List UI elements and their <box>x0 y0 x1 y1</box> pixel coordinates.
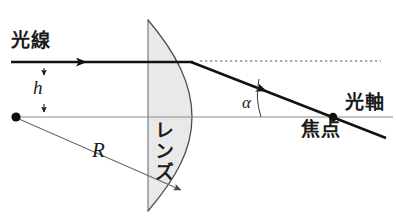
lens-ray-diagram: 光線 光軸 焦点 レンズ h R α <box>0 0 396 221</box>
radius-label: R <box>92 140 105 161</box>
angle-alpha-arc <box>257 79 261 117</box>
center-of-curvature-dot <box>11 112 20 121</box>
ray-height-label: h <box>33 78 43 97</box>
optical-axis-label: 光軸 <box>345 93 384 112</box>
refraction-angle-label: α <box>242 94 251 111</box>
lens-label: レンズ <box>153 120 172 183</box>
diagram-canvas <box>0 0 396 221</box>
incident-ray-label: 光線 <box>11 31 50 50</box>
focal-point-label: 焦点 <box>301 120 340 139</box>
